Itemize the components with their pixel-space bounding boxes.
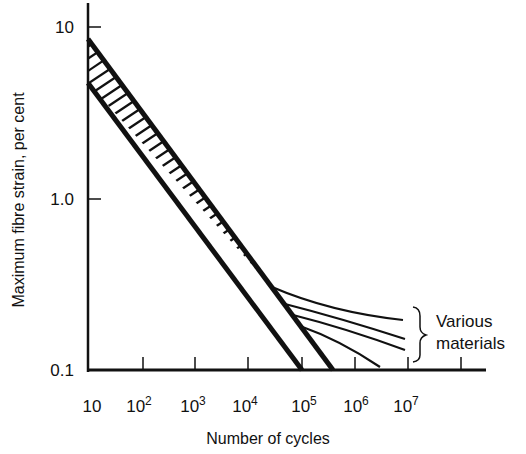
upper-bound-line (88, 39, 333, 370)
y-tick-label-0-1: 0.1 (50, 361, 74, 380)
material-curve-2 (285, 304, 405, 339)
x-tick-label-10-6: 106 (343, 394, 369, 416)
material-curve-4 (300, 326, 380, 367)
x-tick-label-10: 10 (83, 397, 102, 416)
x-tick-label-10-7: 107 (393, 394, 419, 416)
x-axis-title: Number of cycles (206, 430, 330, 447)
y-axis-title: Maximum fibre strain, per cent (10, 92, 27, 308)
x-tick-label-10-3: 103 (180, 394, 206, 416)
chart: Various materials 10 1.0 0.1 10 102 103 … (0, 0, 526, 454)
y-tick-label-10: 10 (55, 18, 74, 37)
x-tick-label-10-4: 104 (232, 394, 258, 416)
lower-bound-line (88, 83, 302, 370)
annotation-various: Various (436, 312, 492, 331)
scatter-band-hatching (80, 20, 308, 317)
y-tick-label-1: 1.0 (50, 190, 74, 209)
x-tick-label-10-5: 105 (291, 394, 317, 416)
various-materials-brace (413, 307, 426, 362)
annotation-materials: materials (436, 334, 505, 353)
x-tick-label-10-2: 102 (126, 394, 152, 416)
